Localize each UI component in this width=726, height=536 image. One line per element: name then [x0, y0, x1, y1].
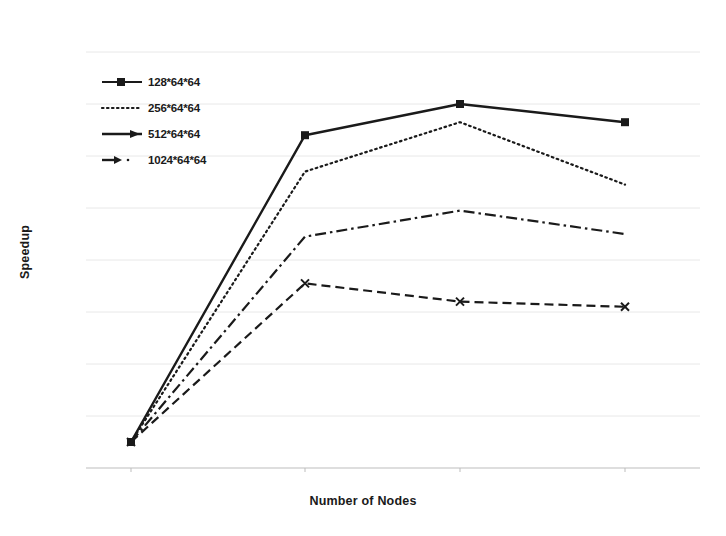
legend-label-512: 512*64*64 — [148, 128, 200, 140]
legend-key-dashdot-icon — [100, 127, 144, 141]
legend-key-dotted-icon — [100, 101, 144, 115]
legend-item-256[interactable]: 256*64*64 — [100, 95, 290, 121]
legend-item-128[interactable]: 128*64*64 — [100, 69, 290, 95]
series-line-1024*64*64 — [131, 283, 625, 442]
axis-lines — [131, 468, 625, 472]
marker-128*64*64-2 — [301, 131, 309, 139]
marker-128*64*64-8 — [621, 118, 629, 126]
legend-key-solid-square-icon — [100, 75, 144, 89]
legend-label-1024: 1024*64*64 — [148, 154, 206, 166]
legend-label-256: 256*64*64 — [148, 102, 200, 114]
x-axis-title: Number of Nodes — [0, 494, 726, 508]
legend: 128*64*64 256*64*64 512*64*64 1024*64*64 — [100, 69, 290, 173]
legend-item-512[interactable]: 512*64*64 — [100, 121, 290, 147]
legend-key-dashed-x-icon — [100, 153, 144, 167]
legend-label-128: 128*64*64 — [148, 76, 200, 88]
marker-128*64*64-4 — [456, 100, 464, 108]
speedup-line-chart: Number of Nodes Speedup 128*64*64 256*64… — [0, 0, 726, 536]
y-axis-title: Speedup — [18, 197, 32, 307]
legend-item-1024[interactable]: 1024*64*64 — [100, 147, 290, 173]
